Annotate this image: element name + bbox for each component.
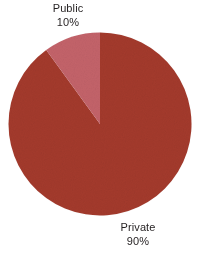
pie-slices <box>9 33 192 216</box>
pie-graphic <box>8 32 192 216</box>
pie-svg <box>8 32 192 216</box>
slice-label-public: Public 10% <box>34 2 102 29</box>
slice-label-private: Private 90% <box>103 221 173 248</box>
pie-slice-private <box>9 33 192 216</box>
pie-chart: Public 10% Private 90% <box>0 0 202 262</box>
slice-label-public-value: 10% <box>34 16 102 30</box>
slice-label-private-value: 90% <box>103 235 173 249</box>
slice-label-private-name: Private <box>103 221 173 235</box>
slice-label-public-name: Public <box>34 2 102 16</box>
